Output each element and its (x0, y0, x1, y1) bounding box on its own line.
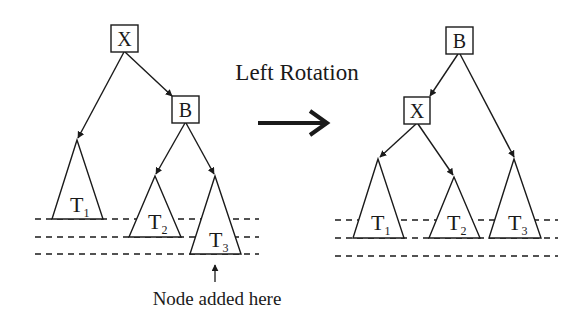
edge-x-to-t2 (418, 124, 453, 175)
right-arrow-icon (258, 111, 327, 135)
node-x-label: X (117, 28, 132, 50)
edge-x-to-b (125, 52, 172, 96)
edge-b-to-t3 (460, 54, 514, 157)
edge-b-to-x (430, 54, 458, 96)
after-node-b: B (446, 27, 473, 54)
after-node-x: X (404, 97, 430, 124)
before-node-b: B (172, 96, 199, 123)
node-added-caption: Node added here (153, 288, 282, 309)
node-x-label: X (410, 100, 425, 122)
edge-b-to-t3 (186, 123, 214, 174)
after-tree: T1 T2 T3 B X (335, 27, 558, 256)
edge-x-to-t1 (380, 124, 416, 157)
edge-b-to-t2 (156, 123, 185, 174)
rotation-title: Left Rotation (235, 60, 359, 85)
insertion-marker: Node added here (153, 265, 282, 309)
edge-x-to-t1 (78, 52, 124, 138)
avl-left-rotation-diagram: T1 T2 T3 X B Node added here Left Rotati… (0, 0, 584, 313)
node-b-label: B (179, 99, 192, 121)
node-b-label: B (453, 30, 466, 52)
before-node-x: X (111, 25, 138, 52)
